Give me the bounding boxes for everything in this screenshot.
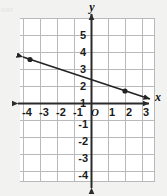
x-tick-label-neg3: -3 <box>39 106 49 118</box>
data-point-marker <box>27 57 32 62</box>
graph-figure: owr <box>0 0 167 196</box>
origin-label: O <box>91 106 99 118</box>
x-tick-label-2: 2 <box>126 106 132 118</box>
y-tick-label-4: 4 <box>80 46 87 58</box>
y-tick-label-neg2: -2 <box>78 135 88 147</box>
coordinate-plane: -4 -3 -2 -1 O 1 2 3 5 4 3 2 1 -1 -2 -3 -… <box>0 0 167 196</box>
x-tick-label-neg2: -2 <box>56 106 66 118</box>
y-axis-label: y <box>87 0 95 14</box>
data-point-marker <box>122 88 127 93</box>
y-tick-label-5: 5 <box>80 29 86 41</box>
x-tick-label-1: 1 <box>109 106 115 118</box>
y-tick-label-1: 1 <box>80 97 86 109</box>
x-tick-label-neg4: -4 <box>22 106 33 118</box>
x-axis-label: x <box>154 90 161 104</box>
y-tick-label-neg3: -3 <box>78 152 88 164</box>
y-tick-label-2: 2 <box>80 80 86 92</box>
y-tick-label-neg1: -1 <box>78 118 88 130</box>
y-tick-label-3: 3 <box>80 63 86 75</box>
y-tick-label-neg4: -4 <box>78 169 89 181</box>
x-tick-label-3: 3 <box>143 106 149 118</box>
